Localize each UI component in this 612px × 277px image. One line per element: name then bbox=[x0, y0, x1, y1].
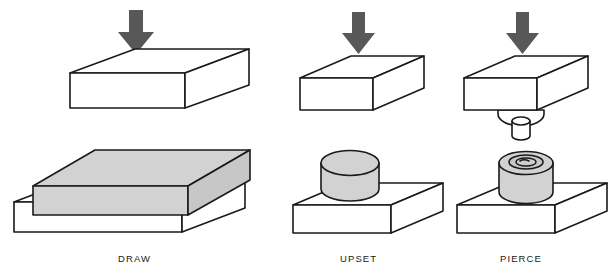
forging-operations-diagram: .ln{fill:none;stroke:#1a1a1a;stroke-widt… bbox=[0, 0, 612, 277]
down-arrow-icon bbox=[118, 10, 154, 54]
pierced-cylinder bbox=[499, 152, 553, 204]
label-pierce: PIERCE bbox=[500, 253, 542, 264]
formed-part-draw bbox=[14, 150, 250, 232]
workpiece-upset-blank bbox=[300, 56, 424, 110]
figure-canvas: .ln{fill:none;stroke:#1a1a1a;stroke-widt… bbox=[0, 0, 612, 277]
upset-cylinder bbox=[321, 151, 379, 202]
workpiece-draw-blank bbox=[70, 49, 249, 108]
down-arrow-icon bbox=[342, 12, 375, 54]
pierce-punch-pin bbox=[498, 110, 544, 140]
formed-part-upset bbox=[293, 151, 443, 234]
column-draw bbox=[14, 10, 250, 232]
formed-part-pierce bbox=[457, 152, 607, 234]
column-pierce bbox=[457, 12, 607, 233]
workpiece-pierce-blank bbox=[464, 56, 588, 140]
label-draw: DRAW bbox=[118, 253, 151, 264]
down-arrow-icon bbox=[506, 12, 539, 54]
column-upset bbox=[293, 12, 443, 233]
label-upset: UPSET bbox=[340, 253, 377, 264]
